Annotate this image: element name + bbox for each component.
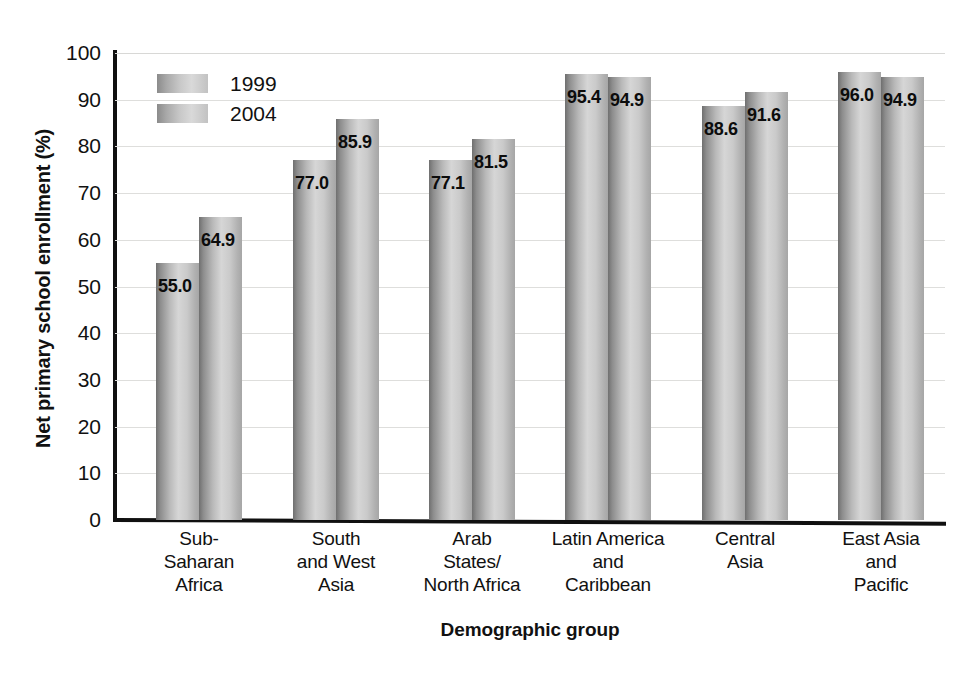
- legend: 19992004: [157, 68, 317, 128]
- bar-value-label: 85.9: [338, 132, 372, 153]
- category-label-line: East Asia: [801, 527, 961, 550]
- bar: [881, 77, 924, 520]
- category-label-line: Caribbean: [528, 573, 688, 596]
- legend-swatch: [157, 74, 208, 93]
- bar: [608, 77, 651, 520]
- bar-chart: Net primary school enrollment (%) 100908…: [0, 0, 970, 675]
- bar: [429, 160, 472, 520]
- category-label-line: Africa: [119, 573, 279, 596]
- y-axis-tick-label: 0: [41, 509, 101, 530]
- legend-item: 2004: [157, 98, 317, 128]
- bar: [293, 160, 336, 520]
- bar-value-label: 55.0: [158, 276, 192, 297]
- x-axis-title: Demographic group: [115, 619, 945, 641]
- category-label-line: Pacific: [801, 573, 961, 596]
- bar-value-label: 94.9: [610, 90, 644, 111]
- bar: [745, 92, 788, 520]
- legend-label: 2004: [230, 103, 277, 124]
- x-axis-category-label: Sub-SaharanAfrica: [119, 527, 279, 596]
- category-label-line: Sub-: [119, 527, 279, 550]
- bar-value-label: 91.6: [747, 105, 781, 126]
- category-label-line: and: [801, 550, 961, 573]
- bar: [472, 139, 515, 520]
- bar: [838, 72, 881, 520]
- bar-group: 88.691.6: [702, 53, 788, 520]
- y-axis-tick-label: 50: [41, 276, 101, 297]
- legend-swatch: [157, 104, 208, 123]
- x-axis-category-label: East AsiaandPacific: [801, 527, 961, 596]
- y-axis-tick-label: 100: [41, 42, 101, 63]
- y-axis-tick-label: 80: [41, 135, 101, 156]
- bar-group: 77.181.5: [429, 53, 515, 520]
- bar: [156, 263, 199, 520]
- bar-value-label: 81.5: [474, 152, 508, 173]
- category-label-line: Saharan: [119, 550, 279, 573]
- bar: [702, 106, 745, 520]
- bar-value-label: 94.9: [883, 90, 917, 111]
- bar: [336, 119, 379, 520]
- bar-group: 95.494.9: [565, 53, 651, 520]
- bar-value-label: 64.9: [201, 230, 235, 251]
- y-axis-tick-label: 70: [41, 182, 101, 203]
- x-axis-category-label: Latin AmericaandCaribbean: [528, 527, 688, 596]
- bar-value-label: 77.0: [295, 173, 329, 194]
- category-label-line: and: [528, 550, 688, 573]
- bar-value-label: 77.1: [431, 173, 465, 194]
- y-axis-tick-label: 30: [41, 369, 101, 390]
- y-axis-tick-label: 40: [41, 322, 101, 343]
- bar-value-label: 95.4: [567, 87, 601, 108]
- y-axis-tick-label: 60: [41, 229, 101, 250]
- y-axis-tick-label: 20: [41, 416, 101, 437]
- y-axis-tick-label: 10: [41, 462, 101, 483]
- bar: [199, 217, 242, 520]
- y-axis-tick-label: 90: [41, 89, 101, 110]
- legend-item: 1999: [157, 68, 317, 98]
- bar-value-label: 96.0: [840, 85, 874, 106]
- bar-value-label: 88.6: [704, 119, 738, 140]
- bar-group: 96.094.9: [838, 53, 924, 520]
- category-label-line: Latin America: [528, 527, 688, 550]
- bar: [565, 74, 608, 520]
- legend-label: 1999: [230, 73, 277, 94]
